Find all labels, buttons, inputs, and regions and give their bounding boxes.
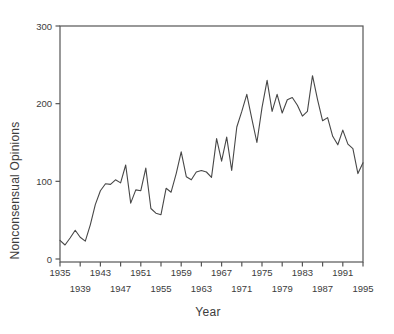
x-axis-title: Year — [58, 305, 358, 319]
x-tick-label: 1959 — [171, 267, 192, 278]
x-tick-label: 1971 — [231, 283, 252, 294]
y-axis-title: Nonconsensual Opinions — [8, 111, 23, 271]
x-tick-label: 1951 — [130, 267, 151, 278]
x-tick-label: 1967 — [211, 267, 232, 278]
x-tick-label: 1955 — [150, 283, 171, 294]
y-tick-label: 100 — [36, 176, 52, 187]
x-tick-label: 1939 — [70, 283, 91, 294]
x-tick-label: 1935 — [49, 267, 70, 278]
x-tick-label: 1947 — [110, 283, 131, 294]
x-tick-label: 1995 — [352, 283, 373, 294]
x-tick-label: 1983 — [292, 267, 313, 278]
y-tick-label: 200 — [36, 98, 52, 109]
chart: 0100200300193519431951195919671975198319… — [0, 0, 394, 334]
x-tick-label: 1943 — [90, 267, 111, 278]
data-line — [60, 76, 363, 245]
x-tick-label: 1979 — [272, 283, 293, 294]
x-tick-label: 1987 — [312, 283, 333, 294]
y-tick-label: 0 — [47, 254, 52, 265]
x-tick-label: 1975 — [251, 267, 272, 278]
plot-frame — [60, 26, 363, 262]
x-tick-label: 1963 — [191, 283, 212, 294]
y-tick-label: 300 — [36, 21, 52, 32]
line-chart-canvas: 0100200300193519431951195919671975198319… — [0, 0, 394, 334]
x-tick-label: 1991 — [332, 267, 353, 278]
